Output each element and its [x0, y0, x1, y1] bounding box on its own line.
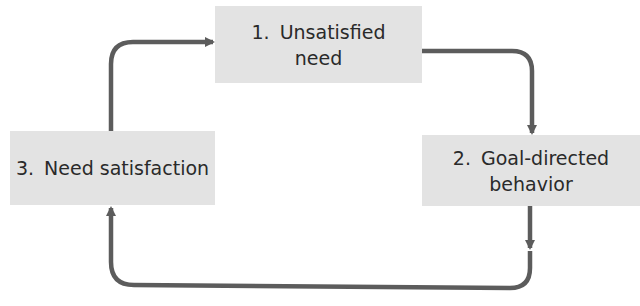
- node-label-line2: need: [295, 45, 342, 71]
- node-label: Need satisfaction: [44, 155, 209, 181]
- node-number: 1.: [252, 21, 270, 43]
- node-unsatisfied-need: 1.Unsatisfied need: [215, 6, 422, 83]
- node-number: 2.: [453, 147, 471, 169]
- arrow-2-to-3: [111, 208, 530, 288]
- node-label-line1: Goal-directed: [481, 147, 609, 169]
- node-need-satisfaction: 3.Need satisfaction: [10, 131, 215, 205]
- arrow-3-to-1: [111, 42, 213, 131]
- arrow-1-to-2: [422, 51, 532, 133]
- node-goal-directed-behavior: 2.Goal-directed behavior: [422, 135, 640, 206]
- node-number: 3.: [16, 155, 34, 181]
- node-label-line1: Unsatisfied: [280, 21, 386, 43]
- node-label-line2: behavior: [489, 171, 572, 197]
